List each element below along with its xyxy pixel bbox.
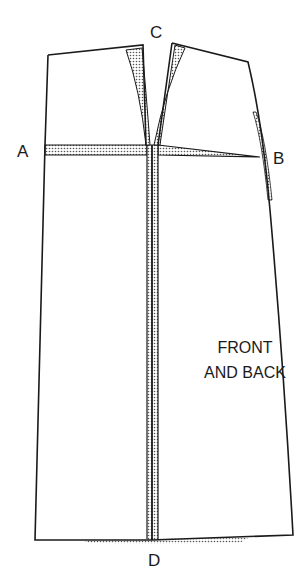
piece-label-line1: FRONT [190, 335, 300, 360]
right-panel-outline [152, 43, 293, 540]
insert-strips [45, 45, 272, 544]
point-d-label: D [148, 552, 160, 569]
piece-label-line2: AND BACK [190, 360, 300, 385]
pattern-drawing [0, 0, 308, 588]
point-b-label: B [273, 150, 284, 167]
piece-label: FRONT AND BACK [190, 335, 300, 385]
point-c-label: C [150, 24, 162, 41]
left-panel-outline [35, 45, 152, 540]
point-a-label: A [17, 143, 28, 160]
